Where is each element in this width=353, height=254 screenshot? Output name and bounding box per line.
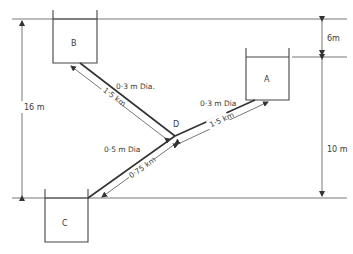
pipe-a-d-diameter: 0·3 m Dia (200, 99, 236, 108)
pipe-a-d-length: 1·5 km (208, 110, 235, 129)
reservoir-b-label: B (71, 39, 77, 48)
dimension-10m-label: 10 m (327, 145, 348, 154)
reservoir-b: B (53, 10, 97, 63)
dimension-6m-label: 6m (327, 34, 340, 43)
junction-d-label: D (173, 120, 179, 129)
reservoir-a-label: A (264, 75, 270, 84)
reservoir-a: A (246, 48, 289, 100)
reservoir-c-label: C (62, 219, 68, 228)
pipe-b-d-diameter: 0·3 m Dia. (116, 82, 155, 91)
pipe-d-c-diameter: 0·5 m Dia (104, 145, 140, 154)
pipe-b-d (80, 63, 175, 136)
reservoir-c: C (45, 189, 88, 242)
pipe-network-diagram: B A C D 0·3 m Dia. 1·5 km 0·3 m Dia 1·5 … (0, 0, 353, 254)
dimension-16m-label: 16 m (24, 103, 45, 112)
